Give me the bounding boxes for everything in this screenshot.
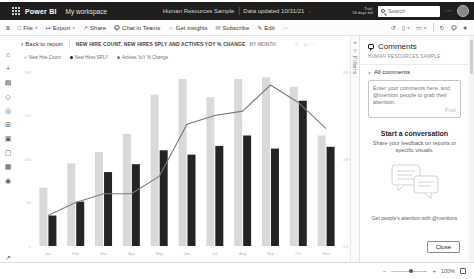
file-icon: □ [18,25,22,31]
export-icon: ↦ [46,24,51,31]
bar-new-hire-count-sep[interactable] [262,77,270,246]
all-comments-filter[interactable]: ∨ All comments [368,69,461,75]
subscribe-button[interactable]: ✉ Subscribe [216,24,250,31]
bar-new-hire-count-mar[interactable] [95,152,103,246]
bar-new-hire-count-jun[interactable] [179,79,187,246]
expand-filters-icon[interactable]: « [354,39,357,45]
divider [360,64,469,65]
sidebar-item-browse[interactable]: ▤ [5,79,12,87]
get-insights-button[interactable]: ☼ Get insights [168,25,207,31]
visual-title: NEW HIRE COUNT, NEW HIRES SPLY AND ACTIV… [76,41,246,47]
legend-item-new-hires-sply[interactable]: New Hires SPLY [70,55,108,60]
copy-visual-icon[interactable]: □ [304,41,307,47]
bar-new-hires-sply-jan[interactable] [48,216,56,246]
trial-badge[interactable]: Trial: 56 days left [353,7,373,16]
app-launcher-icon[interactable] [12,7,20,15]
fit-to-page-icon[interactable] [460,268,466,274]
bookmarks-button[interactable]: ▯ ∨ [402,24,410,31]
scrollbar-thumb[interactable] [470,40,473,74]
filters-pane-collapsed[interactable]: « ▽ Filters [350,36,359,262]
chevron-down-icon: ∨ [407,25,410,30]
back-to-report-button[interactable]: ‹ Back to report [21,41,63,48]
sidebar-item-home[interactable]: ⌂ [6,51,10,59]
legend-item-actives-yoy[interactable]: Actives YoY % Change [117,55,168,60]
bar-new-hire-count-aug[interactable] [234,79,242,246]
y2-axis-tick: 0% [343,244,349,249]
bar-new-hire-count-jan[interactable] [39,188,47,246]
comments-toggle-icon[interactable] [451,26,456,30]
chevron-down-icon: ∨ [368,70,371,75]
sidebar-item-learn[interactable]: ▢ [5,149,12,157]
comments-scrollbar[interactable] [469,36,474,262]
bar-new-hires-sply-feb[interactable] [76,202,84,246]
bar-new-hire-count-jul[interactable] [206,97,214,246]
zoom-slider-knob[interactable] [409,269,413,273]
reset-to-default-icon[interactable]: ↺ [391,24,396,31]
bar-new-hire-count-oct[interactable] [290,87,298,246]
zoom-slider[interactable] [391,271,427,272]
report-name[interactable]: Human Resources Sample [163,8,235,14]
bar-new-hires-sply-nov[interactable] [327,147,335,246]
x-axis-label: Nov [323,251,330,256]
favorite-star-icon[interactable]: ★ [463,24,468,31]
hamburger-menu-icon[interactable]: ≡ [6,25,10,33]
x-axis-label: Jul [212,251,217,256]
x-axis-label: Aug [239,251,246,256]
refresh-icon[interactable]: ↻ [440,24,445,31]
toolbar-more-icon[interactable]: ⋯ [283,24,289,31]
bar-new-hires-sply-aug[interactable] [243,136,251,246]
export-menu-button[interactable]: ↦ Export ∨ [46,24,75,31]
bar-new-hires-sply-sep[interactable] [271,149,279,246]
bar-new-hire-count-may[interactable] [151,95,159,246]
search-box[interactable] [378,6,440,17]
start-conversation-title: Start a conversation [368,130,461,137]
share-icon: ↗ [83,24,88,31]
start-conversation-subtitle: Share your feedback on reports or specif… [368,140,461,154]
mentions-hint: Get people's attention with @mentions [368,215,461,221]
sidebar-item-my-workspace[interactable]: ◉ [5,177,11,185]
bar-new-hires-sply-jul[interactable] [215,146,223,246]
avatar[interactable] [457,5,469,17]
edit-button[interactable]: ✎ Edit [257,24,274,31]
bar-new-hires-sply-mar[interactable] [104,172,112,246]
line-actives-yoy-change[interactable] [48,85,326,216]
expand-rail-icon[interactable]: ↗ [5,254,11,262]
zoom-out-icon[interactable]: − [383,268,387,274]
visual-more-options-icon[interactable]: ⋯ [312,41,317,47]
bar-new-hires-sply-jun[interactable] [188,155,196,246]
search-input[interactable] [388,8,437,14]
post-button[interactable]: Post [445,107,456,114]
visual-filters-icon[interactable]: ▽ [295,41,299,47]
combo-chart[interactable]: 0501001502000%20%40%JanFebMarAprMayJunJu… [18,62,350,260]
sidebar-item-workspaces[interactable]: ▦ [5,163,12,171]
conversation-illustration [387,160,443,206]
x-axis-label: Sep [267,251,275,256]
share-button[interactable]: ↗ Share [83,24,106,31]
legend-item-new-hire-count[interactable]: New Hire Count [24,55,61,60]
report-canvas: ‹ Back to report NEW HIRE COUNT, NEW HIR… [16,36,350,262]
chat-in-teams-button[interactable]: Chat in Teams [114,25,160,31]
powerbi-logo[interactable]: Power BI [25,8,57,15]
view-button[interactable]: ▭ ∨ [416,24,427,31]
data-updated-label[interactable]: Data updated 10/31/21 [243,8,304,14]
sidebar-item-create[interactable]: + [6,65,10,73]
bar-new-hires-sply-oct[interactable] [299,101,307,246]
sidebar-item-data-hub[interactable]: ◇ [5,93,10,101]
header-more-icon[interactable]: ⋯ [445,7,452,15]
sidebar-item-apps[interactable]: ⊞ [5,121,11,129]
bar-new-hire-count-nov[interactable] [318,136,326,246]
bar-new-hires-sply-apr[interactable] [132,164,140,246]
sidebar-item-goals[interactable]: ◎ [5,107,11,115]
y-axis-tick: 150 [24,113,31,118]
sidebar-item-pipelines[interactable]: ▣ [5,135,12,143]
comment-input[interactable]: Enter your comments here, and @mention p… [368,80,461,118]
workspace-name[interactable]: My workspace [66,8,108,15]
bar-new-hire-count-apr[interactable] [123,134,131,246]
chevron-down-icon[interactable]: ∨ [308,9,311,14]
close-comments-button[interactable]: Close [427,241,460,253]
zoom-in-icon[interactable]: + [432,268,436,274]
bar-new-hires-sply-may[interactable] [160,150,168,246]
envelope-icon: ✉ [216,24,221,31]
file-menu-button[interactable]: □ File ∨ [18,25,38,31]
pencil-icon: ✎ [257,24,262,31]
